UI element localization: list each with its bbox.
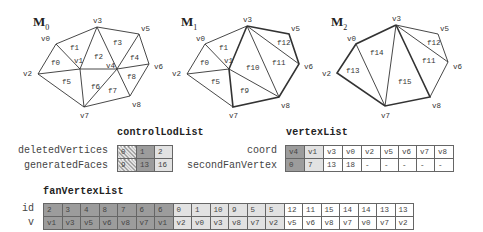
svg-text:f10: f10 [246,64,260,72]
table-cell: - [435,159,454,172]
table-cell: 2 [44,204,63,217]
table-cell: v3 [210,217,229,230]
svg-text:v0: v0 [41,35,51,43]
svg-text:v7: v7 [381,112,390,120]
svg-text:v1: v1 [74,57,84,65]
svg-text:v2: v2 [23,70,32,78]
svg-text:f5: f5 [211,78,221,86]
svg-text:v4: v4 [106,62,116,70]
control-lod-list-title: controlLodList [117,127,204,138]
vertex-list-table: v4 v1 v3 v0 v2 v5 v6 v7 v8 0 7 13 18 - -… [285,145,454,172]
table-cell: v0 [358,217,377,230]
table-cell: - [381,159,399,172]
table-cell: v6 [399,146,417,159]
svg-text:f0: f0 [51,59,61,67]
svg-text:v6: v6 [304,63,314,71]
table-cell: 0 [286,159,305,172]
svg-text:v3: v3 [93,17,103,25]
row-label-second-fan-vertex: secondFanVertex [180,160,277,171]
table-row: 9 13 16 [118,159,173,172]
table-cell: v8 [321,217,340,230]
table-row: 2 3 4 8 7 6 6 0 1 10 9 5 5 12 11 15 14 1… [44,204,414,217]
table-cell: 14 [340,204,359,217]
table-cell: v6 [99,217,118,230]
table-cell: v2 [362,146,381,159]
svg-text:f8: f8 [127,73,136,81]
table-cell: v5 [284,217,303,230]
table-row: 0 7 13 18 - - - - - [286,159,454,172]
svg-text:f11: f11 [422,57,436,65]
mesh-title-m2: M2 [331,14,347,32]
table-cell: v5 [381,146,399,159]
mesh-title-m1: M1 [181,14,197,32]
table-cell: - [417,159,435,172]
svg-text:v3: v3 [243,16,253,24]
table-cell: 11 [303,204,322,217]
table-cell: v1 [305,146,324,159]
table-row: v1 v3 v5 v6 v8 v7 v1 v2 v0 v3 v8 v7 v2 v… [44,217,414,230]
table-cell: v7 [377,217,396,230]
fan-vertex-list-title: fanVertexList [43,186,124,197]
table-cell: 5 [266,204,285,217]
svg-text:f1: f1 [70,44,80,52]
table-cell: 1 [137,146,155,159]
mesh-diagrams: v3v0v5 v1v4v6 v2v7v8 f1f0f2 f3f4f5 f6f7f… [0,0,483,130]
svg-text:f9: f9 [240,87,249,95]
svg-text:v8: v8 [132,101,141,109]
table-row: 0 1 2 [118,146,173,159]
svg-text:f2: f2 [94,53,103,61]
svg-text:v8: v8 [432,102,441,110]
table-cell: v2 [266,217,285,230]
svg-text:f4: f4 [130,54,140,62]
svg-text:v2: v2 [322,70,331,78]
table-cell: v7 [417,146,435,159]
table-cell: 0 [118,146,137,159]
table-cell: 6 [155,204,174,217]
table-cell: - [362,159,381,172]
svg-text:v0: v0 [196,35,206,43]
fan-vertex-list-table: 2 3 4 8 7 6 6 0 1 10 9 5 5 12 11 15 14 1… [43,203,414,230]
row-label-v: v [0,217,34,228]
table-cell: 0 [173,204,192,217]
table-cell: 13 [395,204,414,217]
table-cell: v1 [155,217,174,230]
svg-text:v5: v5 [440,25,450,33]
control-lod-list-table: 0 1 2 9 13 16 [117,145,173,172]
svg-text:v5: v5 [141,25,151,33]
svg-text:v6: v6 [453,63,463,71]
mesh-m0-edges [38,27,149,107]
table-cell: 12 [284,204,303,217]
table-cell: 9 [229,204,248,217]
table-cell: 7 [305,159,324,172]
table-cell: 2 [155,146,173,159]
svg-text:v6: v6 [154,63,164,71]
table-cell: 14 [358,204,377,217]
row-label-id: id [0,203,34,214]
table-cell: 3 [62,204,81,217]
table-cell: 6 [136,204,155,217]
svg-text:f13: f13 [346,67,360,75]
table-cell: 16 [155,159,173,172]
svg-text:f1: f1 [219,44,229,52]
svg-text:v7: v7 [229,112,238,120]
svg-text:v2: v2 [172,70,181,78]
table-cell: 13 [324,159,343,172]
table-cell: 18 [343,159,362,172]
svg-text:v5: v5 [291,25,301,33]
svg-text:f0: f0 [200,59,210,67]
svg-text:f6: f6 [91,83,101,91]
table-cell: v7 [247,217,266,230]
table-cell: 13 [137,159,155,172]
table-cell: - [399,159,417,172]
table-cell: v7 [340,217,359,230]
table-cell: v0 [192,217,211,230]
table-cell: v3 [324,146,343,159]
svg-text:f12: f12 [427,39,441,47]
table-cell: v0 [343,146,362,159]
svg-text:f11: f11 [272,59,286,67]
svg-text:v0: v0 [347,35,357,43]
table-cell: 7 [118,204,137,217]
svg-text:f12: f12 [277,39,291,47]
svg-text:f7: f7 [108,87,117,95]
table-cell: v2 [395,217,414,230]
